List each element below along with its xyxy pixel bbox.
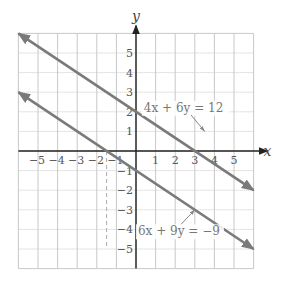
x-tick-label: −2 [88, 154, 104, 167]
x-tick-label: 5 [231, 154, 238, 167]
x-tick-label: 1 [152, 154, 159, 167]
x-axis-label: x [264, 143, 272, 159]
x-tick-label: −5 [29, 154, 45, 167]
x-tick-label: −3 [68, 154, 84, 167]
y-tick-label: −2 [117, 184, 133, 197]
y-tick-label: 1 [126, 125, 133, 138]
x-tick-label: 3 [191, 154, 198, 167]
leader-arrow [191, 115, 205, 132]
y-tick-label: 5 [126, 47, 133, 60]
equation-label-line1: 4x + 6y = 12 [144, 101, 223, 115]
x-tick-label: −4 [48, 154, 64, 167]
x-tick-label: 2 [172, 154, 179, 167]
coordinate-graph: −5−4−3−2−112345−5−4−3−2−112345 4x + 6y =… [0, 0, 281, 293]
y-tick-label: −4 [117, 223, 133, 236]
y-tick-label: −5 [117, 243, 133, 256]
y-tick-label: 4 [126, 67, 133, 80]
equation-label-line2: 6x + 9y = −9 [138, 224, 220, 238]
y-tick-label: −3 [117, 204, 133, 217]
y-axis-label: y [131, 8, 141, 24]
y-tick-label: 3 [126, 86, 133, 99]
leader-arrow [181, 210, 195, 224]
